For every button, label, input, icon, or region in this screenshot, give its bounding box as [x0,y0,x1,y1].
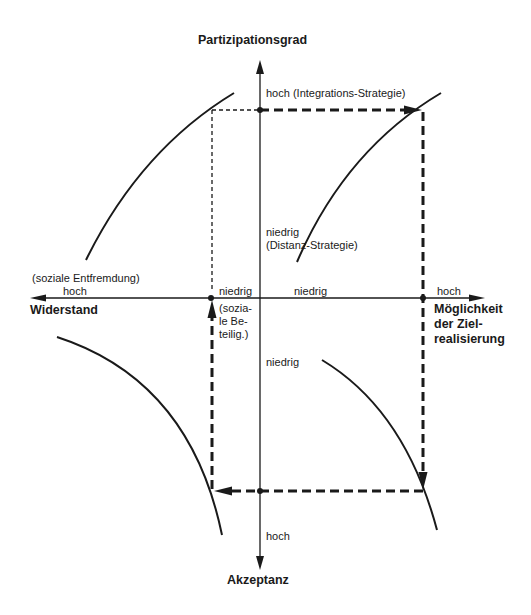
axis-arrow-up-icon [256,60,264,74]
left-high-label: hoch [63,285,87,298]
axis-title-top: Partizipationsgrad [198,33,307,48]
curve-lower-right [322,360,437,530]
left-high-sublabel: (soziale Entfremdung) [32,272,140,285]
left-low-sublabel-1: (sozia- [219,302,252,315]
left-low-sublabel-2: le Be- [219,315,248,328]
bottom-low-label: niedrig [266,356,299,369]
axis-arrow-left-icon [30,295,46,302]
dot-right [420,295,426,301]
top-low-sublabel: (Distanz-Strategie) [266,239,358,252]
axis-title-left: Widerstand [30,303,98,318]
left-low-sublabel-3: teilig.) [219,328,248,341]
axis-title-right-1: Möglichkeit [434,302,503,317]
top-low-label: niedrig [266,226,299,239]
arrow-up-icon [208,300,217,318]
axis-arrow-right-icon [469,295,485,302]
right-high-label: hoch [437,285,461,298]
arrow-left-icon [214,487,232,496]
axis-title-bottom: Akzeptanz [227,573,289,588]
curve-lower-left [57,337,222,535]
dot-bottom [257,488,263,494]
axis-title-right-2: der Ziel- [434,317,483,332]
dot-top [257,107,263,113]
left-low-label: niedrig [219,285,252,298]
bottom-high-label: hoch [266,530,290,543]
axis-title-right-3: realisierung [434,332,505,347]
axis-arrow-down-icon [256,556,264,570]
dot-left [208,295,214,301]
curve-upper-right [297,93,441,262]
top-high-label: hoch (Integrations-Strategie) [266,87,405,100]
right-low-label: niedrig [294,285,327,298]
